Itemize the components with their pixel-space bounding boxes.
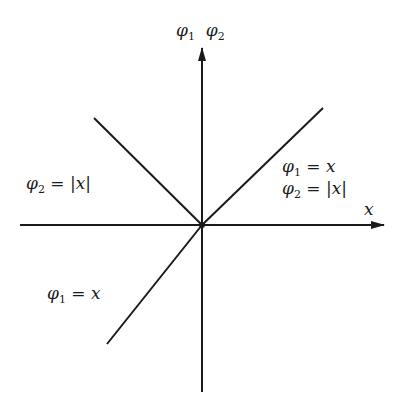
diagram-canvas (0, 0, 402, 410)
equation-text: = x (301, 156, 336, 176)
annotation-right-2: φ2 = |x| (282, 180, 347, 200)
x-axis-label: x (364, 201, 374, 218)
equation-text: = |x| (301, 178, 347, 198)
annotation-lower-left: φ1 = x (47, 285, 101, 305)
origin-dot (199, 222, 205, 228)
subscript: 1 (59, 293, 66, 306)
subscript: 1 (294, 166, 301, 179)
subscript: 2 (218, 30, 225, 43)
phi-symbol: φ (176, 20, 188, 40)
phi-symbol: φ (26, 173, 38, 193)
phi-symbol: φ (282, 156, 294, 176)
subscript: 2 (294, 188, 301, 201)
annotation-upper-left: φ2 = |x| (26, 175, 91, 195)
y-axis-label: φ1 φ2 (176, 22, 225, 42)
annotation-right-1: φ1 = x (282, 158, 336, 178)
abs-x-left-branch (94, 118, 202, 225)
identity-left-branch (107, 225, 202, 344)
phi-symbol: φ (282, 178, 294, 198)
phi-symbol: φ (206, 20, 218, 40)
subscript: 1 (188, 30, 195, 43)
subscript: 2 (38, 183, 45, 196)
phi-symbol: φ (47, 283, 59, 303)
equation-text: = x (66, 283, 101, 303)
equation-text: = |x| (45, 173, 91, 193)
